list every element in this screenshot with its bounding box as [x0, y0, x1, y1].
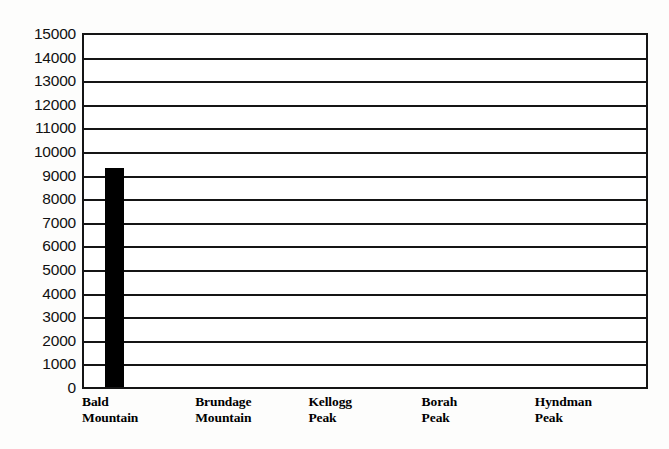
- category-label-line-2: Peak: [422, 410, 458, 426]
- category-label-line-2: Peak: [535, 410, 592, 426]
- y-axis-tick-label: 8000: [0, 191, 76, 207]
- y-axis-tick-label: 13000: [0, 73, 76, 89]
- y-axis-tick-label: 10000: [0, 144, 76, 160]
- y-axis-tick-label: 11000: [0, 120, 76, 136]
- y-axis-tick-label: 1000: [0, 356, 76, 372]
- category-label-line-1: Hyndman: [535, 394, 592, 410]
- x-axis-category-label: HyndmanPeak: [535, 394, 592, 426]
- y-axis-tick-label: 12000: [0, 97, 76, 113]
- y-axis-tick-label: 15000: [0, 26, 76, 42]
- y-axis-tick-label: 7000: [0, 215, 76, 231]
- category-label-line-1: Brundage: [195, 394, 251, 410]
- bar: [105, 168, 124, 387]
- category-label-line-1: Borah: [422, 394, 458, 410]
- plot-area: [82, 33, 648, 389]
- y-axis-tick-label: 0: [0, 380, 76, 396]
- y-axis-tick-label: 9000: [0, 168, 76, 184]
- y-axis-tick-label: 3000: [0, 309, 76, 325]
- bar-chart: 1500014000130001200011000100009000800070…: [0, 0, 669, 449]
- y-axis: 1500014000130001200011000100009000800070…: [0, 0, 76, 449]
- y-axis-tick-label: 14000: [0, 50, 76, 66]
- category-label-line-2: Mountain: [195, 410, 251, 426]
- category-label-line-1: Kellogg: [308, 394, 352, 410]
- x-axis-category-label: BorahPeak: [422, 394, 458, 426]
- y-axis-tick-label: 2000: [0, 333, 76, 349]
- category-label-line-2: Peak: [308, 410, 352, 426]
- y-axis-tick-label: 6000: [0, 238, 76, 254]
- x-axis-labels: BaldMountainBrundageMountainKelloggPeakB…: [82, 394, 648, 444]
- x-axis-category-label: KelloggPeak: [308, 394, 352, 426]
- x-axis-category-label: BrundageMountain: [195, 394, 251, 426]
- y-axis-tick-label: 5000: [0, 262, 76, 278]
- x-axis-category-label: BaldMountain: [82, 394, 138, 426]
- y-axis-tick-label: 4000: [0, 286, 76, 302]
- category-label-line-1: Bald: [82, 394, 138, 410]
- category-label-line-2: Mountain: [82, 410, 138, 426]
- bars: [84, 35, 646, 387]
